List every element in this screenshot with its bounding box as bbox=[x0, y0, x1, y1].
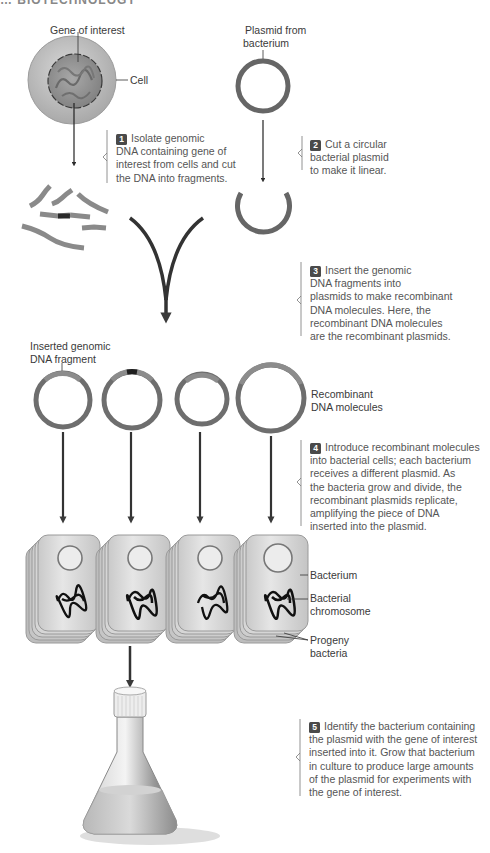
step-number-badge: 3 bbox=[310, 266, 321, 277]
label-plasmid-from-bacterium-2: bacterium bbox=[243, 37, 289, 50]
culture-flask bbox=[80, 687, 220, 845]
arrows-to-bacteria bbox=[63, 432, 271, 520]
step-number-badge: 2 bbox=[310, 140, 321, 151]
label-gene-of-interest: Gene of interest bbox=[50, 24, 125, 37]
dna-fragments bbox=[22, 186, 108, 248]
recombinant-plasmids bbox=[36, 363, 304, 431]
label-recombinant-2: DNA molecules bbox=[311, 401, 383, 414]
step-2: 2Cut a circular bacterial plasmid to mak… bbox=[310, 138, 430, 178]
step-4: 4Introduce recombinant molecules into ba… bbox=[310, 441, 490, 533]
label-inserted-fragment-1: Inserted genomic bbox=[30, 340, 111, 353]
step-number-badge: 1 bbox=[116, 134, 127, 145]
step-number-badge: 4 bbox=[310, 443, 321, 454]
plasmid-linear bbox=[238, 193, 290, 232]
label-progeny-1: Progeny bbox=[310, 634, 349, 647]
label-recombinant-1: Recombinant bbox=[311, 388, 373, 401]
cell-illustration bbox=[28, 32, 128, 164]
merge-arrow bbox=[130, 218, 203, 318]
label-bacterial-chromosome-2: chromosome bbox=[310, 605, 371, 618]
step-number-badge: 5 bbox=[309, 722, 320, 733]
step-5: 5Identify the bacterium containing the p… bbox=[309, 720, 489, 799]
step-1: 1Isolate genomic DNA containing gene of … bbox=[116, 132, 246, 185]
label-bacterium: Bacterium bbox=[310, 569, 357, 582]
label-cell: Cell bbox=[130, 74, 148, 87]
label-inserted-fragment-2: DNA fragment bbox=[30, 353, 96, 366]
label-plasmid-from-bacterium-1: Plasmid from bbox=[245, 24, 306, 37]
bacteria-stacks bbox=[26, 535, 308, 643]
label-progeny-2: bacteria bbox=[310, 647, 347, 660]
label-bacterial-chromosome-1: Bacterial bbox=[310, 592, 351, 605]
step-3: 3Insert the genomic DNA fragments into p… bbox=[310, 264, 480, 343]
